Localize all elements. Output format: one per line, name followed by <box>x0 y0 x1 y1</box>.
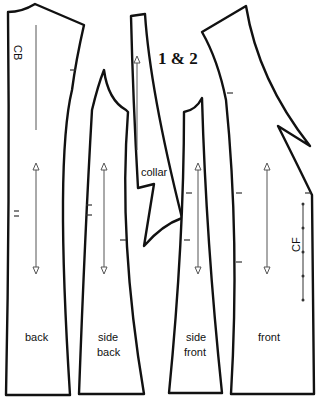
pattern-title: 1 & 2 <box>158 49 198 68</box>
cb-marker: CB <box>12 45 24 60</box>
back-label: back <box>25 331 49 343</box>
cf-marker: CF <box>290 237 302 252</box>
collar-label: collar <box>141 166 168 178</box>
side-front-label-2: front <box>184 346 206 358</box>
side-back-label-2: back <box>97 346 121 358</box>
pattern-diagram: 1 & 2 CB back side back collar side fron… <box>0 0 318 414</box>
side-front-label-1: side <box>186 331 206 343</box>
side-back-label-1: side <box>98 331 118 343</box>
front-label: front <box>258 331 280 343</box>
